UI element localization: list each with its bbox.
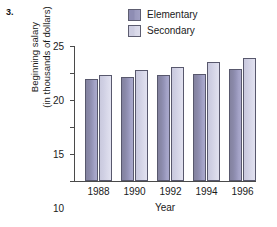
bar-secondary-1990 [135,70,148,181]
x-tick-label-1996: 1996 [231,186,253,197]
y-axis-label: Beginning salary (in thousands of dollar… [29,0,53,127]
bar-secondary-1996 [243,58,256,181]
x-tick-label-1988: 1988 [87,186,109,197]
bar-elementary-1992 [157,75,170,181]
bar-elementary-1994 [193,74,206,181]
bar-group [229,46,256,181]
bar-secondary-1988 [99,75,112,181]
legend-item-elementary: Elementary [128,8,198,21]
x-axis-line [74,181,256,182]
y-tick-mark: 25 [70,46,74,47]
plot-area: 0510152025 19881990199219941996 [74,46,256,182]
legend-label-secondary: Secondary [147,25,195,37]
legend-swatch-secondary [128,25,141,37]
bar-group [157,46,184,181]
x-tick-label-1990: 1990 [123,186,145,197]
legend-swatch-elementary [128,9,141,21]
y-tick-label: 15 [53,149,64,160]
x-tick-label-1992: 1992 [159,186,181,197]
y-tick-label: 10 [53,203,64,214]
y-axis-label-line1: Beginning salary [29,0,41,127]
bar-group [85,46,112,181]
x-tick-label-1994: 1994 [195,186,217,197]
bar-elementary-1988 [85,79,98,181]
x-axis-label: Year [74,202,256,213]
y-tick-mark: 15 [70,100,74,101]
y-tick-mark: 20 [70,73,74,74]
bar-chart-figure: 3. Elementary Secondary Beginning salary… [0,0,277,227]
y-tick-mark: 0 [70,181,74,182]
legend-label-elementary: Elementary [147,9,198,21]
legend-item-secondary: Secondary [128,24,198,37]
chart-legend: Elementary Secondary [128,8,198,37]
bar-elementary-1990 [121,77,134,181]
bar-group [121,46,148,181]
y-tick-mark: 5 [70,154,74,155]
y-tick-mark: 10 [70,127,74,128]
bar-secondary-1992 [171,67,184,181]
y-tick-label: 25 [53,41,64,52]
item-number: 3. [6,7,14,17]
y-tick-label: 20 [53,95,64,106]
bars-container [75,46,256,181]
bar-secondary-1994 [207,62,220,181]
y-axis-label-line2: (in thousands of dollars) [41,0,53,127]
bar-elementary-1996 [229,69,242,181]
bar-group [193,46,220,181]
